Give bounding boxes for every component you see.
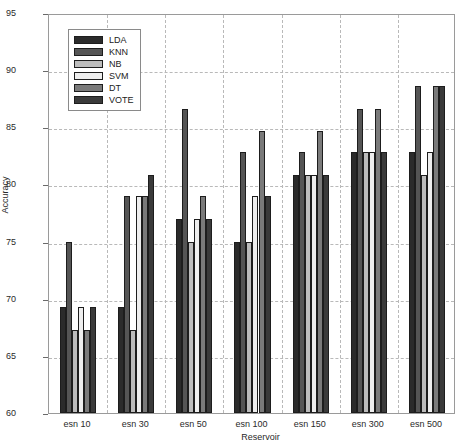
- legend-label: DT: [109, 84, 121, 93]
- y-tick-label: 90: [0, 66, 16, 75]
- bar-group: [234, 15, 270, 413]
- y-tick-label: 85: [0, 123, 16, 132]
- x-axis-title: Reservoir: [26, 432, 469, 442]
- legend-item: KNN: [74, 46, 134, 58]
- legend-swatch: [74, 96, 103, 104]
- x-tick-label: esn 150: [280, 419, 340, 429]
- bar-chart-figure: 6065707580859095 Accuracy esn 10esn 30es…: [0, 0, 469, 445]
- bar: [323, 175, 329, 413]
- bar-group: [293, 15, 329, 413]
- legend-swatch: [74, 48, 103, 56]
- legend-label: LDA: [109, 36, 127, 45]
- x-tick-label: esn 30: [105, 419, 165, 429]
- legend-label: VOTE: [109, 96, 134, 105]
- legend-swatch: [74, 60, 103, 68]
- legend-item: NB: [74, 58, 134, 70]
- gridline-vertical: [223, 15, 224, 413]
- gridline-vertical: [282, 15, 283, 413]
- legend-label: SVM: [109, 72, 129, 81]
- legend-swatch: [74, 84, 103, 92]
- y-tick-mark: [43, 414, 48, 415]
- bar: [381, 152, 387, 413]
- x-tick-label: esn 500: [396, 419, 456, 429]
- legend: LDAKNNNBSVMDTVOTE: [68, 29, 141, 111]
- bar: [439, 86, 445, 413]
- legend-item: LDA: [74, 34, 134, 46]
- gridline-vertical: [165, 15, 166, 413]
- legend-item: DT: [74, 82, 134, 94]
- x-tick-label: esn 100: [222, 419, 282, 429]
- bar: [148, 175, 154, 413]
- legend-swatch: [74, 36, 103, 44]
- x-tick-label: esn 10: [47, 419, 107, 429]
- bar: [90, 307, 96, 413]
- y-tick-label: 60: [0, 409, 16, 418]
- legend-item: SVM: [74, 70, 134, 82]
- legend-label: NB: [109, 60, 122, 69]
- legend-swatch: [74, 72, 103, 80]
- y-tick-label: 70: [0, 295, 16, 304]
- bar-group: [176, 15, 212, 413]
- x-tick-label: esn 50: [163, 419, 223, 429]
- bar: [265, 196, 271, 413]
- x-tick-label: esn 300: [338, 419, 398, 429]
- bar: [206, 219, 212, 413]
- gridline-vertical: [340, 15, 341, 413]
- legend-item: VOTE: [74, 94, 134, 106]
- bar-group: [351, 15, 387, 413]
- y-tick-label: 95: [0, 9, 16, 18]
- y-tick-label: 65: [0, 352, 16, 361]
- y-tick-label: 75: [0, 238, 16, 247]
- bar-group: [409, 15, 445, 413]
- gridline-vertical: [398, 15, 399, 413]
- y-axis-title: Accuracy: [0, 176, 10, 213]
- legend-label: KNN: [109, 48, 128, 57]
